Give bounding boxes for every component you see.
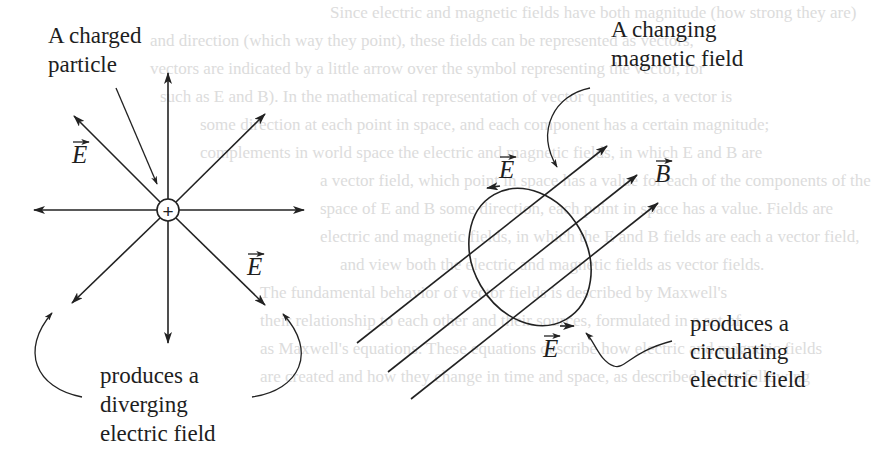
bg-line: electric and magnetic fields, in which t… [320,227,860,246]
vector-e-label-top: E [498,156,514,183]
charge-sign: + [162,201,173,222]
bg-line: some direction at each point in space, a… [200,115,769,134]
label-changing-field-line1: A changing [611,17,717,42]
vector-e-label-lower: E [246,253,262,280]
diagram-svg: Since electric and magnetic fields have … [0,0,871,470]
caption-diverging-line1: produces a [100,363,199,388]
caption-circulating-line1: produces a [690,311,789,336]
figure-canvas: Since electric and magnetic fields have … [0,0,871,470]
label-charged-particle-line2: particle [48,52,117,77]
label-changing-field-line2: magnetic field [611,46,744,71]
caption-circulating-line3: electric field [690,367,806,392]
bg-line: and view both the electric and magnetic … [340,255,764,274]
bg-line: such as E and B). In the mathematical re… [160,87,732,106]
vector-b-label: B [655,160,670,187]
bg-line: Since electric and magnetic fields have … [330,3,856,22]
label-charged-particle-line1: A charged [48,23,142,48]
caption-circulating-line2: circulating [690,339,789,364]
vector-e-label-bottom: E [542,335,558,362]
caption-diverging-line3: electric field [100,421,216,446]
bg-line: space of E and B some direction, each po… [320,199,833,218]
bg-line: a vector field, which point in space has… [320,171,871,190]
bg-line: The fundamental behavior of vector field… [260,283,727,302]
vector-e-label-upper: E [71,141,87,168]
pointer-arrow-to-charge [116,88,157,184]
field-arrow-lower-left [72,218,160,303]
caption-diverging-line2: diverging [100,392,188,417]
curved-pointer-left [35,313,82,397]
bg-line: complements in world space the electric … [200,143,762,162]
